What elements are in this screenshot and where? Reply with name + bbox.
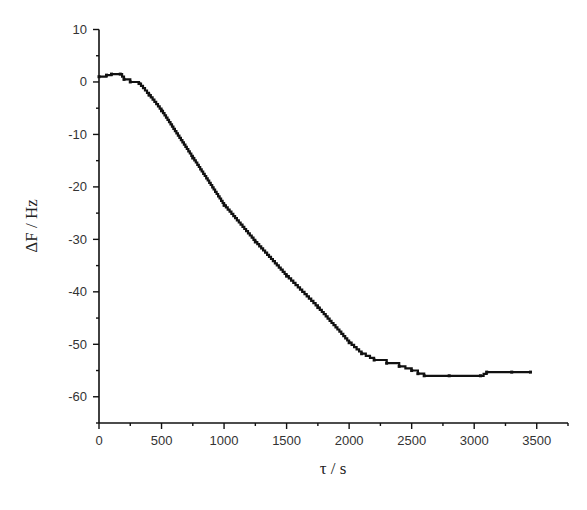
data-point <box>254 240 257 243</box>
data-point <box>148 94 151 97</box>
data-point <box>123 78 126 81</box>
data-point <box>129 80 132 83</box>
y-tick-label: -30 <box>68 232 87 247</box>
x-tick-label: 2000 <box>335 433 364 448</box>
y-tick-label: -10 <box>68 127 87 142</box>
data-point <box>529 371 532 374</box>
data-point <box>138 82 141 85</box>
x-tick-label: 500 <box>151 433 173 448</box>
data-point <box>119 73 122 76</box>
x-tick-label: 3500 <box>522 433 551 448</box>
axes <box>99 30 568 424</box>
data-point <box>223 204 226 207</box>
data-point <box>385 362 388 365</box>
chart: 100-10-20-30-40-50-600500100015002000250… <box>0 0 587 510</box>
x-tick-label: 0 <box>95 433 102 448</box>
data-point <box>448 374 451 377</box>
y-tick-label: -40 <box>68 284 87 299</box>
data-point <box>316 306 319 309</box>
data-point <box>510 371 513 374</box>
data-point <box>285 275 288 278</box>
data-point <box>373 359 376 362</box>
x-tick-label: 3000 <box>460 433 489 448</box>
y-tick-label: -60 <box>68 389 87 404</box>
x-tick-label: 1500 <box>272 433 301 448</box>
y-tick-label: 0 <box>80 74 87 89</box>
y-tick-label: -50 <box>68 337 87 352</box>
series-line <box>99 74 531 376</box>
plot-area <box>98 73 532 378</box>
data-point <box>410 369 413 372</box>
data-point <box>110 73 113 76</box>
y-tick-label: 10 <box>73 22 87 37</box>
data-point <box>360 352 363 355</box>
x-tick-label: 2500 <box>397 433 426 448</box>
x-axis-title: τ / s <box>320 459 347 478</box>
data-point <box>398 365 401 368</box>
data-point <box>423 374 426 377</box>
data-point <box>348 341 351 344</box>
y-tick-label: -20 <box>68 179 87 194</box>
ticks <box>93 30 568 430</box>
data-point <box>479 374 482 377</box>
data-point <box>160 109 163 112</box>
data-point <box>485 371 488 374</box>
data-point <box>416 372 419 375</box>
data-point <box>98 75 101 78</box>
x-tick-label: 1000 <box>210 433 239 448</box>
data-point <box>105 74 108 77</box>
y-axis-title: ΔF / Hz <box>22 199 41 253</box>
data-point <box>191 157 194 160</box>
